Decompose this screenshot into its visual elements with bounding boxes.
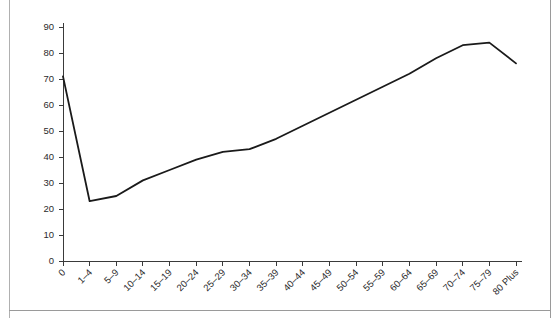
x-axis-tick-label: 45–49 [307,267,333,293]
chart-screenshot: 010203040506070809001–45–910–1415–1920–2… [0,0,559,318]
x-axis-tick-label: 65–69 [414,267,440,293]
x-axis-tick-label: 25–29 [201,267,227,293]
x-axis-tick-label: 20–24 [174,267,200,293]
y-axis-tick-label: 20 [43,203,54,214]
y-axis-tick-label: 0 [49,255,54,266]
page-border-bottom [9,310,551,311]
y-axis-tick-label: 80 [43,47,54,58]
line-chart: 010203040506070809001–45–910–1415–1920–2… [10,0,549,310]
x-axis-tick-label: 10–14 [121,267,147,293]
x-axis-tick-label: 30–34 [227,267,253,293]
y-axis-tick-label: 50 [43,125,54,136]
x-axis-tick-label: 50–54 [334,267,360,293]
y-axis-tick-label: 30 [43,177,54,188]
x-axis-tick-label: 70–74 [441,267,467,293]
x-axis-tick-label: 40–44 [281,267,307,293]
x-axis-tick-label: 5–9 [102,267,121,286]
y-axis-tick-label: 90 [43,21,54,32]
y-axis-tick-label: 70 [43,73,54,84]
y-axis-tick-label: 10 [43,229,54,240]
x-axis-tick-label: 15–19 [148,267,174,293]
x-axis-tick-label: 80 Plus [490,266,520,296]
x-axis-tick-label: 60–64 [387,267,413,293]
y-axis-tick-label: 40 [43,151,54,162]
y-axis-tick-label: 60 [43,99,54,110]
x-axis-tick-label: 1–4 [75,267,94,286]
page-border-right [550,0,551,318]
x-axis-tick-label: 55–59 [361,267,387,293]
data-series-line [63,43,516,202]
x-axis-tick-label: 35–39 [254,267,280,293]
x-axis-tick-label: 0 [56,267,68,279]
chart-plot-area: 010203040506070809001–45–910–1415–1920–2… [10,0,549,310]
